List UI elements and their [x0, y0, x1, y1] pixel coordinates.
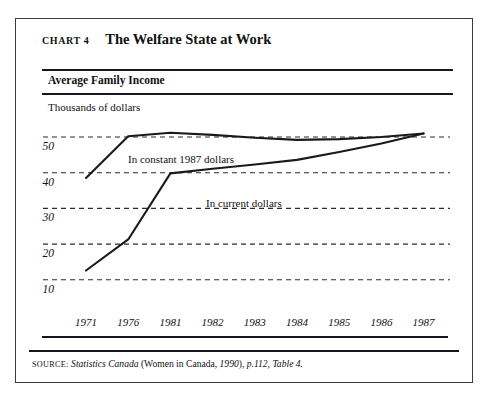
- source-table-ref: p.112, Table 4.: [247, 358, 303, 369]
- x-tick-label: 1971: [64, 316, 108, 328]
- x-tick-label: 1983: [233, 316, 277, 328]
- series-annotation-label: In constant 1987 dollars: [128, 153, 234, 165]
- source-detail-1: (Women in Canada,: [139, 358, 220, 369]
- x-tick-label: 1976: [106, 316, 150, 328]
- chart-figure: Chart 4 The Welfare State at Work Averag…: [15, 18, 473, 383]
- y-tick-label: 50: [28, 140, 54, 152]
- y-tick-label: 20: [28, 247, 54, 259]
- y-tick-label: 40: [28, 176, 54, 188]
- x-tick-label: 1982: [191, 316, 235, 328]
- x-tick-label: 1981: [148, 316, 192, 328]
- y-tick-label: 10: [28, 283, 54, 295]
- source-note: Source: Statistics Canada (Women in Cana…: [32, 358, 303, 369]
- x-tick-label: 1987: [402, 316, 446, 328]
- y-tick-label: 30: [28, 211, 54, 223]
- x-tick-label: 1984: [275, 316, 319, 328]
- x-axis-rule: [42, 336, 448, 338]
- source-rule: [29, 350, 459, 352]
- x-tick-label: 1986: [359, 316, 403, 328]
- source-publisher: Statistics Canada: [71, 358, 138, 369]
- x-tick-label: 1985: [317, 316, 361, 328]
- source-detail-2: ),: [239, 358, 247, 369]
- source-year: 1990: [220, 358, 239, 369]
- source-kicker: Source:: [32, 360, 69, 369]
- series-annotation-label: In current dollars: [206, 197, 282, 209]
